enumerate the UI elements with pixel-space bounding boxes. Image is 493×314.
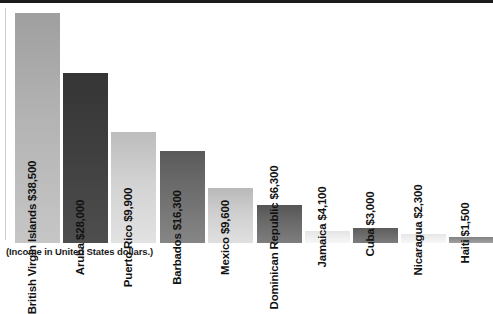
bar-nicaragua: Nicaragua $2,300	[401, 234, 446, 243]
bar-label: Haiti $1,500	[460, 203, 472, 264]
bar-barbados: Barbados $16,300	[160, 151, 205, 243]
bar-label: Jamaica $4,100	[316, 187, 328, 268]
bar-label: Puerto Rico $9,900	[122, 187, 134, 286]
bar-dominican-republic: Dominican Republic $6,300	[257, 205, 302, 243]
plot-area: British Virgin Islands $38,500Aruba $28,…	[0, 0, 493, 243]
bar-label: Aruba $28,000	[74, 199, 86, 274]
bar-mexico: Mexico $9,600	[208, 188, 253, 243]
bar-label: Nicaragua $2,300	[412, 185, 424, 276]
bar-label: Cuba $3,000	[364, 192, 376, 257]
bar-label: Dominican Republic $6,300	[268, 165, 280, 309]
bar-label: British Virgin Islands $38,500	[26, 160, 38, 314]
bar-haiti: Haiti $1,500	[449, 237, 493, 243]
bar-british-virgin-islands: British Virgin Islands $38,500	[15, 13, 60, 243]
bar-label: Mexico $9,600	[219, 200, 231, 275]
bar-aruba: Aruba $28,000	[63, 73, 108, 243]
bar-jamaica: Jamaica $4,100	[305, 231, 350, 243]
bar-label: Barbados $16,300	[171, 190, 183, 285]
bar-cuba: Cuba $3,000	[353, 228, 398, 243]
bar-puerto-rico: Puerto Rico $9,900	[111, 132, 156, 243]
chart-caption: (Income in United States dollars.)	[6, 246, 153, 257]
